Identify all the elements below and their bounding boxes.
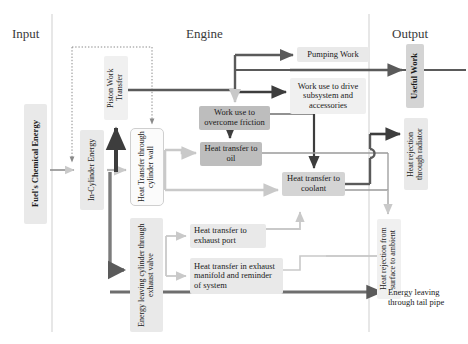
node-piston-work-transfer: Piston Work Transfer [104, 56, 128, 120]
node-energy-leaving-cylinder-through-exhaust-valve: Energy leaving cylinder through exhaust … [130, 218, 163, 332]
link-manifold-to-ambient [283, 256, 386, 270]
arrow-cylwall-to-oil [165, 150, 196, 153]
node-heat-transfer-to-oil: Heat transfer to oil [200, 142, 262, 166]
arrow-incylinder-to-exhaustvalve [110, 172, 124, 270]
section-label-engine: Engine [186, 26, 223, 42]
node-work-use-to-drive-subsystem-and-accessories: Work use to drive subsystem and accessor… [290, 78, 366, 114]
node-work-use-to-overcome-friction: Work use to overcome friction [199, 106, 270, 130]
section-label-input: Input [12, 26, 39, 42]
node-pumping-work: Pumping Work [297, 47, 369, 62]
section-label-output: Output [392, 26, 428, 42]
label-energy-leaving-through-tail-pipe: Energy leaving through tail pipe [388, 288, 468, 308]
link-exhaustport-to-coolant [266, 212, 300, 229]
node-heat-rejection-through-radiator: Heat rejection through radiator [404, 118, 428, 190]
node-heat-transfer-through-cylinder-wall: Heat Transfer through cylinder wall [130, 128, 164, 206]
node-heat-transfer-to-exhaust-port: Heat transfer to exhaust port [190, 224, 266, 248]
node-fuels-chemical-energy: Fuel's Chemical Energy [24, 104, 47, 224]
energy-flow-diagram: Input Engine Output Fuel's Chemical Ener… [0, 0, 468, 344]
node-in-cylinder-energy: In-Cylinder Energy [80, 130, 104, 210]
node-useful-work: Useful Work [406, 44, 424, 108]
node-heat-transfer-in-exhaust-manifold: Heat transfer in exhaust manifold and re… [190, 258, 283, 294]
node-heat-transfer-to-coolant: Heat transfer to coolant [282, 172, 345, 196]
